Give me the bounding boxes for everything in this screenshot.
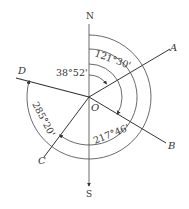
angle-label-121-30: 121°30' (93, 48, 132, 71)
angle-label-217-46: 217°46' (92, 122, 131, 146)
azimuth-diagram: N S A B C D O 38°52' 121°30' 217°46' 285… (0, 0, 189, 209)
angle-label-285-20: 285°20' (30, 100, 57, 138)
ray-label-B: B (167, 140, 175, 151)
angle-label-38-52: 38°52' (56, 67, 88, 78)
ray-label-A: A (169, 42, 177, 53)
ray-label-C: C (38, 155, 46, 166)
south-label: S (86, 189, 92, 199)
ray-label-D: D (17, 65, 26, 76)
north-label: N (86, 11, 94, 21)
diagram-canvas: N S A B C D O 38°52' 121°30' 217°46' 285… (0, 0, 189, 209)
center-label-O: O (91, 102, 99, 113)
arc-38-52 (89, 75, 107, 84)
